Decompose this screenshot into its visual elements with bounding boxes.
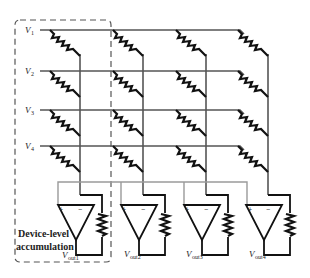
svg-text:out1: out1 xyxy=(68,255,79,261)
svg-text:3: 3 xyxy=(31,110,34,116)
resistor-r1c1 xyxy=(50,30,80,56)
svg-text:out2: out2 xyxy=(130,254,141,260)
resistor-r3c4 xyxy=(238,110,268,136)
input-label-v1: V 1 xyxy=(25,25,34,36)
output-label-vout3: V out3 xyxy=(186,249,203,260)
svg-text:+: + xyxy=(59,206,63,213)
resistor-r4c2 xyxy=(113,146,143,172)
resistor-r2c2 xyxy=(113,71,143,97)
svg-text:1: 1 xyxy=(31,30,34,36)
column-lines xyxy=(80,54,268,195)
resistor-r1c4 xyxy=(238,30,268,56)
resistor-array xyxy=(50,30,268,172)
svg-text:out4: out4 xyxy=(255,254,266,260)
row-line-2 xyxy=(40,71,244,75)
svg-text:+: + xyxy=(122,206,126,213)
svg-text:4: 4 xyxy=(31,146,34,152)
resistor-r4c3 xyxy=(176,146,206,172)
resistor-r3c3 xyxy=(176,110,206,136)
input-label-v3: V 3 xyxy=(25,105,34,116)
resistor-r3c2 xyxy=(113,110,143,136)
resistor-r2c4 xyxy=(238,71,268,97)
resistor-r2c3 xyxy=(176,71,206,97)
crossbar-diagram: V 1 V 2 V 3 V 4 xyxy=(0,0,310,278)
row-line-3 xyxy=(40,110,244,114)
resistor-r4c1 xyxy=(50,146,80,172)
svg-text:−: − xyxy=(266,206,270,213)
annotation-line-1: Device-level xyxy=(18,228,69,239)
opamp-2: + − xyxy=(121,195,169,255)
svg-text:−: − xyxy=(141,206,145,213)
svg-text:+: + xyxy=(248,206,252,213)
svg-text:−: − xyxy=(78,206,82,213)
resistor-r3c1 xyxy=(50,110,80,136)
opamp-4: + − xyxy=(246,195,294,255)
reference-bus xyxy=(58,182,247,205)
row-line-4 xyxy=(40,146,244,150)
resistor-r2c1 xyxy=(50,71,80,97)
resistor-r1c2 xyxy=(113,30,143,56)
row-line-1 xyxy=(40,30,244,34)
input-label-v4: V 4 xyxy=(25,141,34,152)
svg-text:+: + xyxy=(185,206,189,213)
opamp-3: + − xyxy=(184,195,232,255)
svg-text:−: − xyxy=(204,206,208,213)
resistor-r1c3 xyxy=(176,30,206,56)
input-label-v2: V 2 xyxy=(25,66,34,77)
svg-text:out3: out3 xyxy=(192,254,203,260)
svg-text:2: 2 xyxy=(31,71,34,77)
resistor-r4c4 xyxy=(238,146,268,172)
